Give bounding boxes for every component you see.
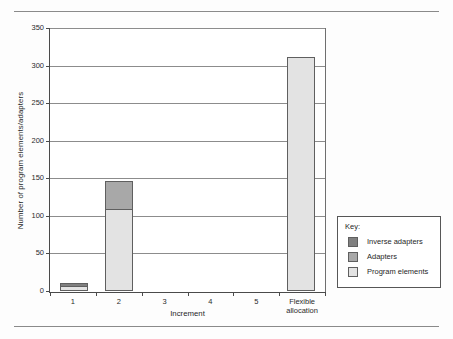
bar-segment[interactable] — [287, 57, 315, 291]
x-axis-tick-label: 3 — [162, 298, 166, 307]
legend-label: Program elements — [367, 267, 428, 276]
y-axis-tick — [46, 253, 50, 254]
y-axis-tick — [46, 178, 50, 179]
legend-box: Key: Inverse adaptersAdaptersProgram ele… — [337, 216, 441, 288]
y-axis-tick — [46, 141, 50, 142]
y-axis-tick-label: 250 — [31, 99, 44, 107]
bar-slot — [142, 30, 188, 291]
y-axis-title-label: Number of program elements/adapters — [17, 92, 26, 229]
legend-label: Adapters — [367, 252, 397, 261]
x-axis-tick — [325, 292, 326, 296]
bar-segment[interactable] — [105, 209, 133, 291]
x-axis-title: Increment — [49, 309, 326, 318]
chart-plot-area: 050100150200250300350 12345Flexiblealloc… — [49, 28, 326, 293]
x-axis-tick — [233, 292, 234, 296]
legend-swatch — [348, 252, 358, 262]
plot-frame: 050100150200250300350 12345Flexiblealloc… — [49, 28, 326, 293]
y-axis-tick — [46, 103, 50, 104]
bar-segment[interactable] — [60, 286, 88, 291]
legend-entry[interactable]: Adapters — [348, 249, 440, 264]
legend-swatch — [348, 267, 358, 277]
x-axis-tick — [279, 292, 280, 296]
legend-entry[interactable]: Program elements — [348, 264, 440, 279]
y-axis-title: Number of program elements/adapters — [14, 28, 28, 293]
bar-slot — [51, 30, 97, 291]
y-axis-tick-label: 0 — [40, 287, 44, 295]
legend-swatch — [348, 237, 358, 247]
y-axis-tick — [46, 28, 50, 29]
legend-label: Inverse adapters — [367, 237, 423, 246]
x-axis-tick-label: 1 — [71, 298, 75, 307]
legend-title: Key: — [345, 222, 440, 231]
x-axis-tick — [96, 292, 97, 296]
stacked-bar[interactable] — [287, 57, 315, 291]
y-axis-tick-label: 150 — [31, 175, 44, 183]
y-axis-tick-label: 100 — [31, 212, 44, 220]
page-rule-top — [14, 11, 439, 12]
bar-slot — [97, 30, 143, 291]
stacked-bar[interactable] — [60, 283, 88, 291]
x-axis-tick — [50, 292, 51, 296]
bar-group — [51, 30, 324, 291]
y-axis-tick-label: 200 — [31, 137, 44, 145]
legend-entries: Inverse adaptersAdaptersProgram elements — [345, 234, 440, 279]
bar-slot — [188, 30, 234, 291]
bar-slot — [279, 30, 325, 291]
x-axis-tick — [142, 292, 143, 296]
legend-entry[interactable]: Inverse adapters — [348, 234, 440, 249]
y-axis-tick-label: 350 — [31, 24, 44, 32]
bar-slot — [233, 30, 279, 291]
y-axis-tick-label: 300 — [31, 62, 44, 70]
y-axis-tick — [46, 216, 50, 217]
x-axis-tick — [188, 292, 189, 296]
x-axis-tick-label: 5 — [254, 298, 258, 307]
y-axis-tick — [46, 66, 50, 67]
page-rule-bottom — [14, 326, 439, 327]
stacked-bar[interactable] — [105, 181, 133, 291]
x-axis-tick-label: 2 — [117, 298, 121, 307]
y-axis-tick-label: 50 — [36, 250, 44, 258]
x-axis-tick-label: 4 — [208, 298, 212, 307]
gridline: 350 — [50, 28, 325, 29]
bar-segment[interactable] — [105, 181, 133, 209]
